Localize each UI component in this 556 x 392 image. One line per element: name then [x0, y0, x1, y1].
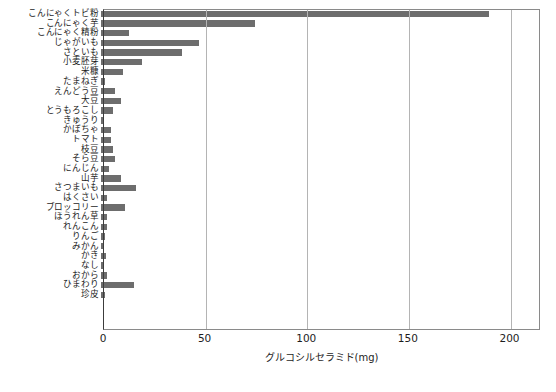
- bar-track: [101, 271, 538, 281]
- bar: [101, 185, 136, 191]
- bar-track: [101, 154, 538, 164]
- bar-track: [101, 251, 538, 261]
- bar-track: [101, 222, 538, 232]
- x-axis-label: グルコシルセラミド(mg): [103, 349, 540, 364]
- bar-track: [101, 57, 538, 67]
- bar-track: [101, 96, 538, 106]
- bar-track: [101, 232, 538, 242]
- bar: [101, 30, 129, 36]
- bar-track: [101, 28, 538, 38]
- bar-track: [101, 125, 538, 135]
- bar: [101, 233, 105, 239]
- bar-track: [101, 135, 538, 145]
- bar-track: [101, 174, 538, 184]
- bar: [101, 204, 125, 210]
- bar: [101, 175, 121, 181]
- bar: [101, 243, 104, 249]
- bar-rows: こんにゃくトビ粉こんにゃく芋こんにゃく精粉じゃがいもさといも小麦胚芽米糠たまねぎ…: [0, 9, 556, 300]
- bar: [101, 253, 106, 259]
- x-tick-label: 0: [100, 332, 107, 345]
- bar: [101, 195, 107, 201]
- bar-track: [101, 38, 538, 48]
- bar-track: [101, 193, 538, 203]
- bar: [101, 224, 107, 230]
- bar: [101, 137, 111, 143]
- bar-track: [101, 145, 538, 155]
- bar: [101, 214, 107, 220]
- bar: [101, 146, 113, 152]
- bar-track: [101, 9, 538, 19]
- x-tick-label: 200: [499, 332, 519, 345]
- bar: [101, 69, 123, 75]
- bar-track: [101, 183, 538, 193]
- bar-track: [101, 261, 538, 271]
- bar-track: [101, 67, 538, 77]
- bar: [101, 166, 109, 172]
- bar-track: [101, 48, 538, 58]
- bar: [101, 292, 105, 298]
- category-label: 珍皮: [0, 290, 101, 300]
- bar-track: [101, 164, 538, 174]
- bar-track: [101, 242, 538, 252]
- bar-track: [101, 203, 538, 213]
- bar: [101, 117, 104, 123]
- bar: [101, 282, 134, 288]
- bar-track: [101, 77, 538, 87]
- bar: [101, 107, 113, 113]
- bar: [101, 88, 115, 94]
- bar-track: [101, 290, 538, 300]
- bar: [101, 59, 142, 65]
- plot-area: こんにゃくトビ粉こんにゃく芋こんにゃく精粉じゃがいもさといも小麦胚芽米糠たまねぎ…: [0, 0, 556, 392]
- bar-track: [101, 87, 538, 97]
- figure-caption: [0, 377, 556, 392]
- bar: [101, 272, 107, 278]
- chart-figure: こんにゃくトビ粉こんにゃく芋こんにゃく精粉じゃがいもさといも小麦胚芽米糠たまねぎ…: [0, 0, 556, 392]
- bar: [101, 262, 103, 268]
- bar: [101, 78, 105, 84]
- bar-track: [101, 212, 538, 222]
- x-tick-label: 150: [398, 332, 418, 345]
- bar: [101, 49, 182, 55]
- bar: [101, 156, 115, 162]
- x-tick-label: 50: [198, 332, 211, 345]
- bar: [101, 11, 489, 17]
- bar: [101, 40, 199, 46]
- bar-track: [101, 19, 538, 29]
- x-tick-label: 100: [296, 332, 316, 345]
- bar-track: [101, 280, 538, 290]
- bar-track: [101, 106, 538, 116]
- bar-row: 珍皮: [0, 290, 556, 300]
- bar: [101, 20, 255, 26]
- bar: [101, 127, 111, 133]
- x-axis-tick-labels: 050100150200: [0, 332, 556, 346]
- bar-track: [101, 116, 538, 126]
- bar: [101, 98, 121, 104]
